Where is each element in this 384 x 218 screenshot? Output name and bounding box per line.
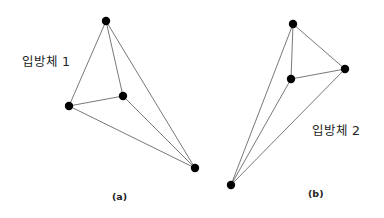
vertex-bottom-right [191,164,199,172]
figure-b-graph [227,20,349,189]
vertex-middle [287,75,295,83]
edge-top-right [293,24,345,69]
figure-b-title: 입방체 2 [312,120,360,139]
figure-b-caption: (b) [308,188,323,199]
edge-middle-bottom-right [123,96,195,168]
vertex-left [65,102,73,110]
edge-top-left [69,21,106,106]
edge-top-middle [106,21,123,96]
diagram-canvas [0,0,384,218]
figure-a-graph [65,17,199,172]
edge-left-middle [69,96,123,106]
vertex-right [341,65,349,73]
figure-a-title: 입방체 1 [22,51,70,70]
vertex-top [289,20,297,28]
edge-bottom-top [231,24,293,185]
edge-top-middle [291,24,293,79]
vertex-bottom [227,181,235,189]
figure-a-caption: (a) [112,191,127,202]
vertex-top [102,17,110,25]
edge-bottom-middle [231,79,291,185]
vertex-middle [119,92,127,100]
